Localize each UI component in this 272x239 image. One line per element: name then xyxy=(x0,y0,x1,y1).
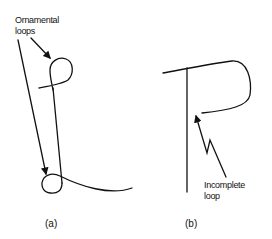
incomplete-loop-label: Incomplete loop xyxy=(204,180,245,202)
label-line2: loop xyxy=(204,191,245,202)
annotation-arrow-bottom xyxy=(18,40,46,174)
label-line2: loops xyxy=(15,26,59,37)
letter-top-stroke-b xyxy=(163,61,250,113)
annotation-arrow-top xyxy=(31,38,50,58)
ornamental-top-loop xyxy=(39,58,72,90)
panel-a-caption: (a) xyxy=(45,218,57,229)
letter-stem-a xyxy=(53,88,62,183)
label-line1: Ornamental xyxy=(15,15,59,26)
annotation-arrow-incomplete xyxy=(196,116,226,177)
ornamental-loops-label: Ornamental loops xyxy=(15,15,59,37)
panel-b-caption: (b) xyxy=(185,218,197,229)
ornamental-bottom-loop xyxy=(42,174,132,193)
label-line1: Incomplete xyxy=(204,180,245,191)
